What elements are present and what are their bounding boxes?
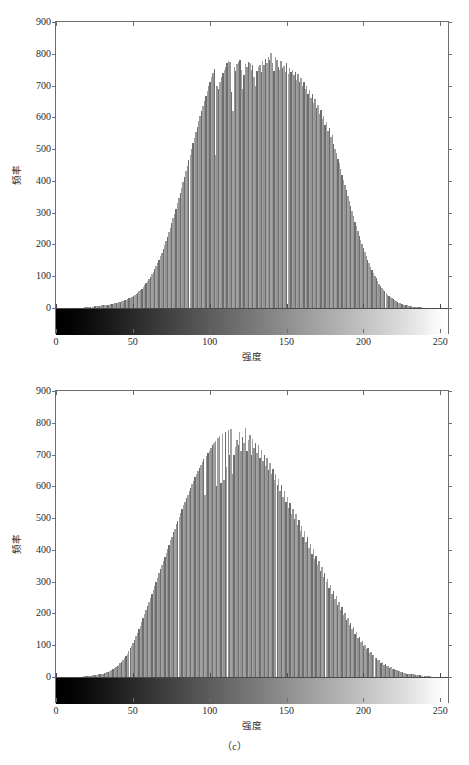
x-tick-mark-zero	[363, 673, 364, 677]
grayscale-colorbar-b	[56, 678, 448, 704]
y-tick-label: 100	[36, 271, 51, 281]
y-tick-label: 200	[36, 239, 51, 249]
y-tick-label: 300	[36, 577, 51, 587]
x-tick-mark-zero	[133, 673, 134, 677]
y-tick-label: 100	[36, 640, 51, 650]
y-axis-title-a: 频率	[9, 155, 23, 195]
x-tick-mark-top	[56, 22, 57, 26]
y-tick-mark	[52, 117, 56, 118]
y-tick-mark-right	[448, 181, 452, 182]
y-tick-label: 400	[36, 545, 51, 555]
y-tick-mark-right	[448, 54, 452, 55]
y-tick-mark-right	[448, 518, 452, 519]
chart-panel-a: 0100200300400500600700800900 05010015020…	[0, 0, 469, 380]
x-tick-label: 50	[128, 336, 138, 347]
y-tick-label: 600	[36, 481, 51, 491]
y-tick-mark-right	[448, 308, 452, 309]
x-tick-mark	[56, 329, 57, 333]
y-tick-mark-right	[448, 86, 452, 87]
y-tick-label: 900	[36, 386, 51, 396]
x-tick-mark-zero	[56, 673, 57, 677]
histogram-bars-b	[56, 391, 448, 677]
x-tick-label: 150	[279, 336, 294, 347]
histogram-plot-area-a	[56, 22, 448, 308]
x-tick-mark	[56, 698, 57, 702]
x-tick-label: 150	[279, 705, 294, 716]
y-tick-label: 700	[36, 81, 51, 91]
grayscale-colorbar-a	[56, 309, 448, 335]
x-tick-mark-top	[133, 391, 134, 395]
y-tick-mark-right	[448, 582, 452, 583]
plot-axes-a: 0100200300400500600700800900 05010015020…	[55, 21, 449, 334]
x-tick-label: 100	[202, 336, 217, 347]
x-tick-mark-zero	[363, 304, 364, 308]
y-tick-label: 400	[36, 176, 51, 186]
x-tick-label: 50	[128, 705, 138, 716]
x-tick-mark-top	[133, 22, 134, 26]
y-tick-mark-right	[448, 117, 452, 118]
x-tick-mark-top	[287, 391, 288, 395]
y-tick-mark-right	[448, 391, 452, 392]
x-axis-title-b: 强度	[55, 718, 449, 732]
x-tick-mark-zero	[210, 673, 211, 677]
x-tick-mark-top	[210, 391, 211, 395]
y-tick-label: 0	[46, 303, 51, 313]
y-tick-mark	[52, 276, 56, 277]
x-tick-mark-zero	[440, 673, 441, 677]
x-tick-mark	[133, 329, 134, 333]
y-tick-label: 800	[36, 49, 51, 59]
x-tick-label: 0	[54, 336, 59, 347]
x-tick-label: 200	[356, 336, 371, 347]
x-tick-mark	[440, 329, 441, 333]
x-tick-mark	[210, 329, 211, 333]
x-tick-mark-top	[363, 22, 364, 26]
y-tick-mark	[52, 486, 56, 487]
y-tick-mark	[52, 423, 56, 424]
y-tick-mark	[52, 645, 56, 646]
x-tick-mark-top	[210, 22, 211, 26]
x-tick-mark-top	[287, 22, 288, 26]
y-tick-mark	[52, 54, 56, 55]
y-tick-label: 200	[36, 608, 51, 618]
x-tick-mark-top	[440, 22, 441, 26]
y-tick-mark-right	[448, 22, 452, 23]
y-tick-label: 500	[36, 513, 51, 523]
figure-caption: （c）	[0, 738, 469, 753]
plot-axes-b: 0100200300400500600700800900 05010015020…	[55, 390, 449, 703]
y-tick-label: 900	[36, 17, 51, 27]
y-tick-mark-right	[448, 276, 452, 277]
x-tick-mark	[133, 698, 134, 702]
x-tick-mark	[287, 698, 288, 702]
y-axis-title-b: 频率	[9, 524, 23, 564]
y-tick-mark-right	[448, 486, 452, 487]
x-tick-label: 200	[356, 705, 371, 716]
x-axis-title-a: 强度	[55, 349, 449, 363]
chart-panel-b: 0100200300400500600700800900 05010015020…	[0, 380, 469, 735]
y-tick-label: 0	[46, 672, 51, 682]
y-tick-label: 300	[36, 208, 51, 218]
y-tick-mark	[52, 181, 56, 182]
y-tick-mark	[52, 550, 56, 551]
x-tick-label: 0	[54, 705, 59, 716]
figure-container: 0100200300400500600700800900 05010015020…	[0, 0, 469, 765]
x-tick-mark-zero	[210, 304, 211, 308]
x-tick-mark-top	[440, 391, 441, 395]
histogram-bars-a	[56, 22, 448, 308]
y-tick-mark	[52, 213, 56, 214]
y-tick-label: 600	[36, 112, 51, 122]
y-tick-mark	[52, 455, 56, 456]
x-tick-mark-zero	[440, 304, 441, 308]
y-tick-mark	[52, 244, 56, 245]
y-tick-mark-right	[448, 613, 452, 614]
y-tick-label: 800	[36, 418, 51, 428]
y-tick-mark	[52, 149, 56, 150]
y-tick-mark-right	[448, 645, 452, 646]
histogram-plot-area-b	[56, 391, 448, 677]
y-tick-mark-right	[448, 213, 452, 214]
x-tick-mark-top	[56, 391, 57, 395]
x-tick-mark	[210, 698, 211, 702]
y-tick-mark-right	[448, 149, 452, 150]
x-tick-mark-zero	[287, 304, 288, 308]
y-tick-mark-right	[448, 244, 452, 245]
x-tick-mark	[287, 329, 288, 333]
